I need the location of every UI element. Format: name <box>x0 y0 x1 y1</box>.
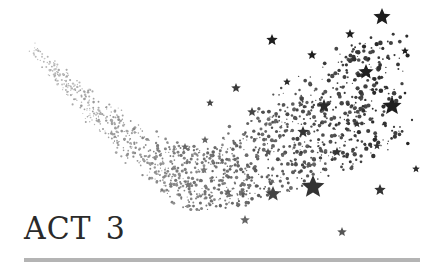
star-icon <box>206 99 214 106</box>
star-icon <box>240 215 250 224</box>
star-icon <box>297 126 308 137</box>
star-dust-particles <box>29 33 413 211</box>
star-icon <box>332 147 342 156</box>
star-icon <box>201 136 209 143</box>
star-icon <box>231 83 241 92</box>
star-icon <box>307 50 317 59</box>
star-icon <box>266 34 277 45</box>
star-icon <box>283 78 291 85</box>
page-title: ACT3 <box>24 213 126 245</box>
title-label: ACT <box>24 210 92 247</box>
star-icon <box>374 184 385 195</box>
title-underline-divider <box>24 258 420 262</box>
star-icon <box>401 47 409 54</box>
star-icon <box>247 107 257 116</box>
star-icon <box>302 175 325 197</box>
star-icon <box>337 227 347 236</box>
title-number: 3 <box>106 210 126 247</box>
star-icon <box>345 29 355 38</box>
star-icon <box>373 8 390 24</box>
star-icon <box>265 186 280 201</box>
star-icon <box>412 165 420 172</box>
